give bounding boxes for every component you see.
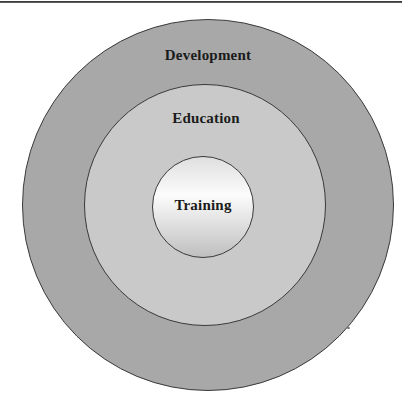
label-training: Training xyxy=(174,197,231,214)
top-border-rule xyxy=(0,1,402,3)
label-development: Development xyxy=(165,47,251,64)
diagram-canvas: Development Education Training xyxy=(0,0,402,409)
label-education: Education xyxy=(172,110,240,127)
dot-artifact xyxy=(347,327,350,329)
